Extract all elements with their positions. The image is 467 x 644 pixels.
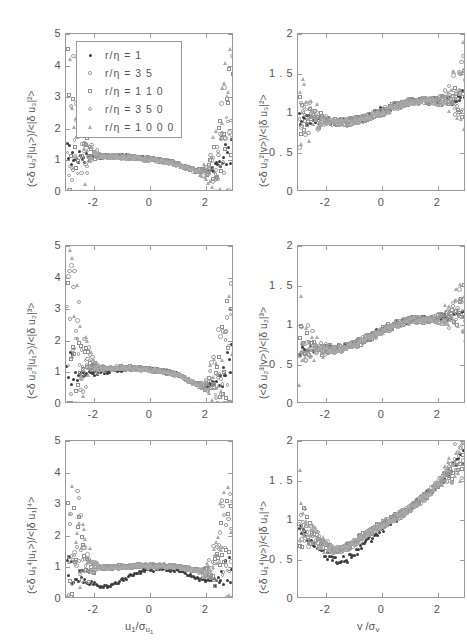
y-tick-label: 0: [266, 592, 293, 604]
data-point: [382, 530, 385, 533]
circle-marker-icon: [82, 104, 98, 114]
marker-glyph: [88, 125, 92, 129]
data-point: [306, 533, 310, 537]
x-tick-label: 0: [378, 603, 385, 615]
marker-glyph: [88, 107, 93, 112]
legend-label: r/η = 3 5 0: [105, 103, 164, 115]
data-point: [456, 471, 460, 475]
data-point: [432, 488, 436, 492]
x-tick-label: 2: [434, 603, 441, 615]
legend-item-110[interactable]: r/η = 1 1 0: [82, 85, 164, 97]
small-circle-marker-icon: [82, 68, 98, 78]
marker-glyph: [88, 89, 92, 93]
data-point: [321, 535, 325, 539]
data-point: [409, 508, 413, 512]
y-tick-label: 1 . 5: [266, 474, 293, 486]
data-point: [450, 480, 454, 484]
x-tick: [438, 441, 439, 445]
panel-bottom-right-plot-area: [297, 440, 465, 598]
y-tick: [460, 520, 464, 521]
legend-item-1[interactable]: r/η = 1: [82, 49, 142, 61]
data-point: [461, 458, 465, 463]
data-point: [360, 547, 363, 550]
y-tick-label: 1: [266, 513, 293, 525]
data-point: [298, 468, 302, 472]
x-tick: [382, 441, 383, 445]
data-point: [354, 542, 358, 546]
data-point: [301, 511, 305, 515]
x-tick: [438, 593, 439, 597]
y-tick: [298, 481, 302, 482]
data-point: [309, 541, 314, 546]
data-point: [299, 537, 304, 542]
filled-dot-marker-icon: [82, 50, 98, 60]
y-tick-label: 0 . 5: [266, 553, 293, 565]
triangle-marker-icon: [82, 122, 98, 132]
data-point: [457, 450, 461, 454]
data-point: [399, 516, 403, 520]
legend-label: r/η = 1 1 0: [105, 85, 164, 97]
data-point: [371, 537, 374, 540]
legend-item-35[interactable]: r/η = 3 5: [82, 67, 153, 79]
panel-bottom-right-y-axis-title: (<δ u₁⁴|v>)/<|δ u₁|⁴>: [257, 501, 269, 594]
data-point: [356, 553, 359, 556]
data-point: [326, 558, 329, 561]
square-marker-icon: [82, 86, 98, 96]
data-point: [300, 545, 304, 549]
data-point: [338, 550, 342, 554]
marker-glyph: [89, 54, 92, 57]
data-point: [415, 502, 419, 506]
legend-label: r/η = 1 0 0 0: [105, 121, 174, 133]
data-point: [342, 555, 345, 558]
data-point: [376, 534, 379, 537]
y-tick-label: 2: [266, 434, 293, 446]
data-point: [440, 483, 444, 487]
data-point: [461, 453, 465, 457]
data-point: [346, 561, 349, 564]
data-point: [315, 529, 319, 533]
data-point: [462, 441, 465, 445]
data-point: [458, 479, 462, 483]
panel-bottom-right: -20200 . 511 . 52(<δ u₁⁴|v>)/<|δ u₁|⁴>v …: [0, 0, 467, 644]
legend-item-1000[interactable]: r/η = 1 0 0 0: [82, 121, 174, 133]
data-point: [310, 533, 315, 538]
data-point: [445, 468, 449, 472]
data-point: [455, 460, 460, 465]
y-tick: [298, 441, 302, 442]
legend-label: r/η = 1: [105, 49, 142, 61]
data-point: [446, 460, 450, 464]
x-tick: [326, 441, 327, 445]
legend-label: r/η = 3 5: [105, 67, 153, 79]
data-point: [451, 463, 455, 467]
y-tick: [298, 560, 302, 561]
data-point: [442, 473, 446, 477]
data-point: [443, 464, 447, 468]
data-point: [378, 531, 381, 534]
x-tick: [382, 593, 383, 597]
marker-glyph: [88, 71, 92, 75]
x-tick: [326, 593, 327, 597]
data-point: [331, 559, 334, 562]
figure-canvas: -202012345(<δ u₃²|u₁>)/<|δ u₃|²>-20200 .…: [0, 0, 467, 644]
data-point: [334, 556, 337, 559]
y-tick: [460, 560, 464, 561]
data-point: [299, 501, 303, 505]
x-tick-label: -2: [320, 603, 331, 615]
data-point: [453, 442, 458, 447]
legend-item-350[interactable]: r/η = 3 5 0: [82, 103, 164, 115]
data-point: [447, 456, 451, 460]
data-point: [370, 540, 373, 543]
data-point: [346, 548, 350, 552]
panel-bottom-right-x-axis-title: v /σv: [357, 620, 379, 634]
data-point: [460, 467, 464, 471]
data-point: [429, 492, 433, 496]
